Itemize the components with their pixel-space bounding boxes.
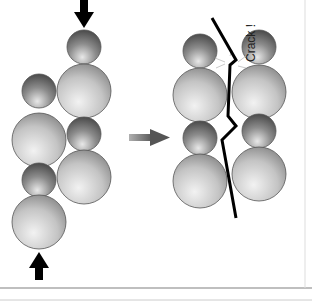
left-sphere-stack <box>12 30 111 249</box>
down-arrow-icon <box>74 0 94 28</box>
crack-label: Crack ! <box>244 24 258 62</box>
up-arrow-icon <box>29 252 49 280</box>
diagram-canvas <box>0 0 312 304</box>
transition-arrow-icon <box>129 129 170 146</box>
